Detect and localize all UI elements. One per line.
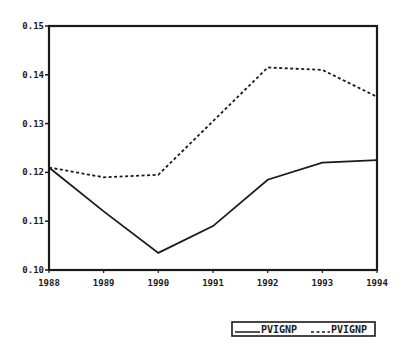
legend: PVIGNP PVIGNP	[232, 322, 375, 336]
legend-label-solid: PVIGNP	[261, 324, 297, 335]
x-tick-label: 1994	[366, 278, 388, 288]
y-tick-label: 0.14	[22, 70, 44, 80]
y-tick-label: 0.10	[22, 265, 44, 275]
y-tick-label: 0.15	[22, 21, 44, 31]
x-tick-label: 1988	[38, 278, 60, 288]
series-line-dashed	[49, 68, 377, 178]
series-line-solid	[49, 160, 377, 253]
x-tick-label: 1992	[257, 278, 279, 288]
legend-label-dashed: PVIGNP	[331, 324, 367, 335]
plot-frame	[49, 26, 377, 270]
x-tick-label: 1989	[93, 278, 115, 288]
line-chart: 0.100.110.120.130.140.15 198819891990199…	[0, 0, 407, 353]
x-tick-label: 1993	[311, 278, 333, 288]
x-tick-label: 1990	[147, 278, 169, 288]
y-tick-label: 0.12	[22, 167, 44, 177]
y-tick-label: 0.11	[22, 216, 44, 226]
x-tick-label: 1991	[202, 278, 224, 288]
y-tick-label: 0.13	[22, 119, 44, 129]
